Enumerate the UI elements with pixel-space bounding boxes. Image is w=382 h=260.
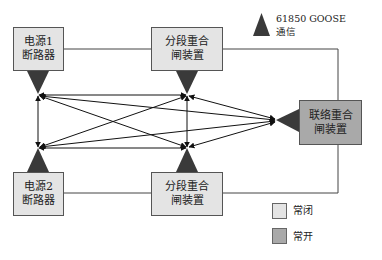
node-label-line1: 电源2	[24, 180, 53, 194]
node-section-recloser-top: 分段重合 闸装置	[151, 27, 223, 71]
legend-goose-label-line2: 通信	[276, 26, 296, 38]
node-label-line2: 闸装置	[171, 49, 204, 63]
node-label-line2: 闸装置	[171, 194, 204, 208]
goose-triangles	[27, 71, 299, 172]
goose-link	[40, 121, 275, 147]
legend-open-swatch	[272, 228, 287, 244]
node-label-line1: 电源1	[24, 35, 53, 49]
node-label-line1: 分段重合	[165, 180, 209, 194]
node-label-line1: 分段重合	[165, 35, 209, 49]
legend-open-label: 常开	[293, 231, 313, 243]
line-section-top-tie	[223, 49, 338, 100]
legend-goose-label-line1: 61850 GOOSE	[276, 13, 346, 25]
node-source2-breaker: 电源2 断路器	[13, 172, 64, 216]
goose-triangle-section-bottom	[176, 148, 198, 172]
legend-closed-swatch	[272, 203, 287, 219]
line-section-bottom-tie	[223, 145, 338, 193]
goose-links	[38, 95, 275, 148]
goose-triangle-source1	[27, 71, 49, 94]
node-source1-breaker: 电源1 断路器	[13, 27, 64, 71]
node-tie-recloser: 联络重合 闸装置	[299, 100, 362, 145]
node-label-line1: 联络重合	[309, 109, 353, 123]
legend-goose-triangle-icon	[253, 13, 270, 36]
legend-closed-label: 常闭	[293, 205, 313, 217]
node-label-line2: 断路器	[22, 194, 55, 208]
goose-triangle-section-top	[176, 71, 198, 94]
node-label-line2: 断路器	[22, 49, 55, 63]
node-section-recloser-bottom: 分段重合 闸装置	[151, 172, 223, 216]
node-label-line2: 闸装置	[314, 123, 347, 137]
goose-triangle-source2	[27, 148, 49, 172]
goose-triangle-tie	[276, 109, 299, 132]
